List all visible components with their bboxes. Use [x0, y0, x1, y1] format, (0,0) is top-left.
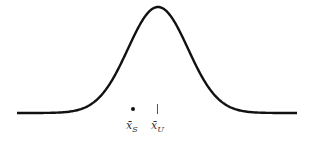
label-subscript: U — [157, 125, 164, 134]
bell-curve — [17, 7, 297, 113]
sample-mean-label: x̄S — [126, 120, 138, 134]
population-mean-label: x̄U — [151, 120, 164, 134]
label-subscript: S — [132, 125, 137, 134]
sample-mean-dot — [131, 107, 135, 111]
